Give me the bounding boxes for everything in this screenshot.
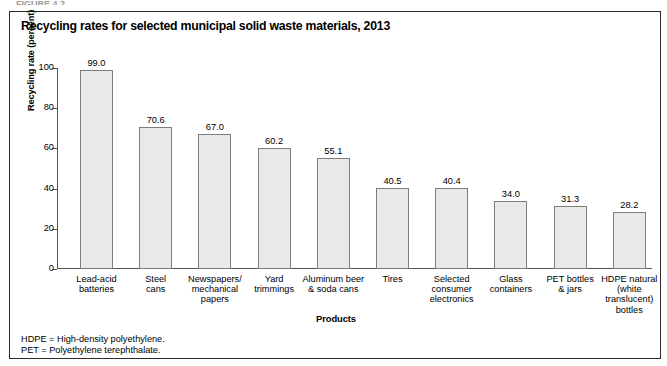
bar-value-label: 40.4 xyxy=(427,176,476,186)
y-tick-label: 40 xyxy=(44,183,54,193)
y-axis-line xyxy=(57,68,58,269)
x-category-label-line: papers xyxy=(178,294,252,304)
plot-area: 100806040200 99.070.667.060.255.140.540.… xyxy=(57,68,652,269)
bar-value-label: 40.5 xyxy=(368,176,417,186)
bar-value-label: 55.1 xyxy=(309,146,358,156)
bar-value-label: 67.0 xyxy=(190,122,239,132)
footnote: HDPE = High-density polyethylene. xyxy=(21,334,165,345)
y-tick-label: 20 xyxy=(44,223,54,233)
bar-value-label: 99.0 xyxy=(72,58,121,68)
bar xyxy=(80,70,113,269)
y-tick-label: 80 xyxy=(44,102,54,112)
chart-title: Recycling rates for selected municipal s… xyxy=(21,19,390,33)
footnotes: HDPE = High-density polyethylene.PET = P… xyxy=(21,334,165,355)
x-category-label-line: & soda cans xyxy=(296,284,370,294)
bar xyxy=(139,127,172,269)
footnote: PET = Polyethylene terephthalate. xyxy=(21,345,165,356)
x-axis-title: Products xyxy=(10,313,662,324)
y-axis-title: Recycling rate (percent) xyxy=(26,10,36,111)
bar-value-label: 70.6 xyxy=(131,115,180,125)
x-category-label-line: HDPE natural xyxy=(592,274,666,284)
figure-frame: Recycling rates for selected municipal s… xyxy=(9,11,661,359)
bar xyxy=(613,212,646,269)
bar xyxy=(198,134,231,269)
y-tick-label: 0 xyxy=(49,263,54,273)
y-tick-label: 100 xyxy=(38,62,54,72)
x-category-label: HDPE natural(white translucent)bottles xyxy=(592,274,666,315)
bar xyxy=(258,148,291,269)
figure-caption-partial: FIGURE 4.2 xyxy=(16,0,86,5)
y-tick-label: 60 xyxy=(44,142,54,152)
bar-value-label: 28.2 xyxy=(605,200,654,210)
bar xyxy=(494,201,527,269)
x-category-label-line: (white translucent) xyxy=(592,284,666,304)
bar-value-label: 31.3 xyxy=(546,194,595,204)
bar xyxy=(376,188,409,269)
bar-value-label: 60.2 xyxy=(250,136,299,146)
bar xyxy=(435,188,468,269)
x-category-label-line: electronics xyxy=(415,294,489,304)
bar xyxy=(317,158,350,269)
bar xyxy=(554,206,587,269)
bar-value-label: 34.0 xyxy=(486,189,535,199)
